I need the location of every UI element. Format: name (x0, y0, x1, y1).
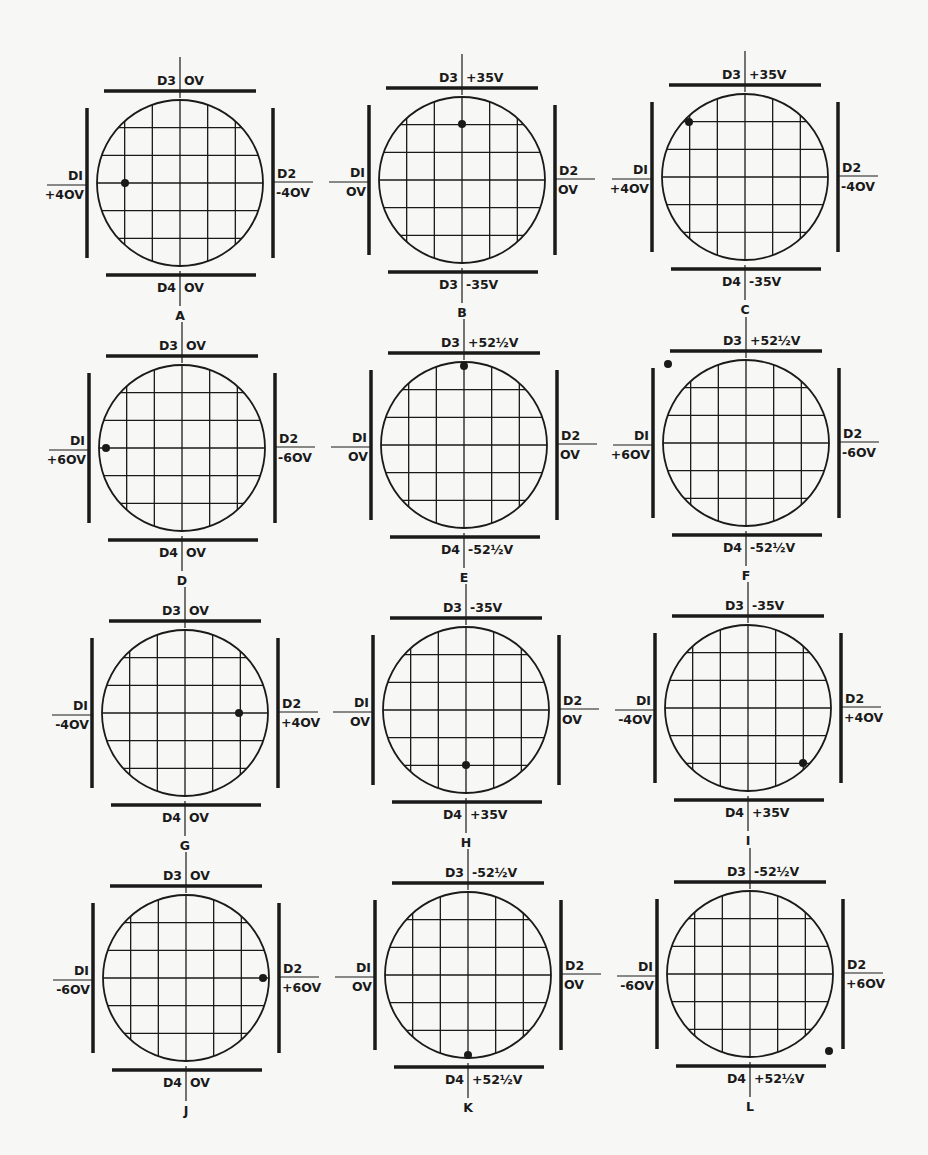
top-plate-name: D3 (723, 333, 742, 348)
top-voltage-label: -35V (470, 600, 503, 615)
d1-plate-name: DI (350, 165, 365, 180)
panel-letter: J (183, 1103, 189, 1118)
electron-spot (664, 360, 672, 368)
deflection-panel-f: DI+6OVD2-6OVD3+52½VD4-52½VF (611, 317, 879, 583)
top-voltage-label: OV (190, 868, 210, 883)
d1-voltage-label: -4OV (618, 712, 652, 727)
bottom-plate-name: D4 (727, 1071, 746, 1086)
d1-plate-name: DI (633, 162, 648, 177)
bottom-voltage-label: OV (190, 1075, 210, 1090)
top-voltage-label: -52½V (754, 864, 800, 879)
d2-voltage-label: +4OV (844, 710, 883, 725)
d2-voltage-label: OV (564, 977, 584, 992)
d1-plate-name: DI (354, 695, 369, 710)
d1-voltage-label: OV (350, 714, 370, 729)
electron-spot (464, 1051, 472, 1059)
d1-plate-name: DI (636, 693, 651, 708)
d2-plate-name: D2 (279, 431, 298, 446)
bottom-voltage-label: OV (184, 280, 204, 295)
deflection-panel-e: DIOVD2OVD3+52½VD4-52½VE (331, 319, 597, 585)
d2-plate-name: D2 (565, 958, 584, 973)
panel-letter: B (457, 305, 467, 320)
d1-voltage-label: -6OV (620, 978, 654, 993)
top-voltage-label: +52½V (468, 335, 519, 350)
electron-spot (235, 709, 243, 717)
deflection-panel-c: DI+4OVD2-4OVD3+35VD4-35VC (610, 51, 878, 317)
top-plate-name: D3 (722, 67, 741, 82)
electron-spot (799, 759, 807, 767)
d2-voltage-label: +6OV (282, 980, 321, 995)
bottom-voltage-label: +35V (752, 805, 790, 820)
deflection-panel-k: DIOVD2OVD3-52½VD4+52½VK (335, 849, 601, 1115)
d1-voltage-label: -4OV (55, 717, 89, 732)
d1-voltage-label: OV (346, 184, 366, 199)
d2-plate-name: D2 (842, 160, 861, 175)
d1-voltage-label: OV (352, 979, 372, 994)
top-voltage-label: OV (184, 73, 204, 88)
top-plate-name: D3 (727, 864, 746, 879)
top-voltage-label: +52½V (750, 333, 801, 348)
top-plate-name: D3 (725, 598, 744, 613)
bottom-voltage-label: +52½V (754, 1071, 805, 1086)
bottom-plate-name: D4 (163, 1075, 182, 1090)
bottom-plate-name: D4 (159, 545, 178, 560)
d2-plate-name: D2 (277, 166, 296, 181)
d1-voltage-label: +6OV (611, 447, 650, 462)
electron-spot (121, 179, 129, 187)
bottom-plate-name: D4 (162, 810, 181, 825)
d2-plate-name: D2 (847, 957, 866, 972)
d2-plate-name: D2 (282, 696, 301, 711)
electron-spot (460, 362, 468, 370)
top-plate-name: D3 (157, 73, 176, 88)
d2-voltage-label: +6OV (846, 976, 885, 991)
d1-plate-name: DI (638, 959, 653, 974)
bottom-plate-name: D4 (722, 274, 741, 289)
d2-plate-name: D2 (283, 961, 302, 976)
bottom-plate-name: D4 (443, 807, 462, 822)
top-plate-name: D3 (443, 600, 462, 615)
deflection-panel-d: DI+6OVD2-6OVD3OVD4OVD (47, 322, 315, 588)
deflection-panel-g: DI-4OVD2+4OVD3OVD4OVG (52, 587, 320, 853)
d2-voltage-label: -4OV (841, 179, 875, 194)
deflection-panel-i: DI-4OVD2+4OVD3-35VD4+35VI (615, 582, 883, 848)
top-voltage-label: -35V (752, 598, 785, 613)
bottom-plate-name: D3 (439, 277, 458, 292)
electron-spot (458, 120, 466, 128)
d2-voltage-label: -6OV (278, 450, 312, 465)
top-voltage-label: -52½V (472, 865, 518, 880)
d1-voltage-label: -6OV (56, 982, 90, 997)
bottom-voltage-label: OV (186, 545, 206, 560)
panel-letter: F (742, 568, 751, 583)
bottom-plate-name: D4 (441, 542, 460, 557)
deflection-panel-a: DI+4OVD2-4OVD3OVD4OVA (45, 57, 313, 323)
electron-spot (259, 974, 267, 982)
bottom-voltage-label: -52½V (468, 542, 514, 557)
panel-letter: I (746, 833, 751, 848)
d2-voltage-label: OV (562, 712, 582, 727)
d2-plate-name: D2 (845, 691, 864, 706)
deflection-panel-b: DIOVD2OVD3+35VD3-35VB (329, 54, 595, 320)
bottom-plate-name: D4 (725, 805, 744, 820)
d2-plate-name: D2 (561, 428, 580, 443)
d2-plate-name: D2 (559, 163, 578, 178)
bottom-plate-name: D4 (445, 1072, 464, 1087)
d2-voltage-label: OV (560, 447, 580, 462)
deflection-panel-h: DIOVD2OVD3-35VD4+35VH (333, 584, 599, 850)
top-plate-name: D3 (163, 868, 182, 883)
deflection-panel-j: DI-6OVD2+6OVD3OVD4OVJ (53, 852, 321, 1118)
panel-letter: G (180, 838, 190, 853)
bottom-plate-name: D4 (157, 280, 176, 295)
d1-voltage-label: +6OV (47, 452, 86, 467)
d1-voltage-label: +4OV (610, 181, 649, 196)
crt-deflection-figure: DI+4OVD2-4OVD3OVD4OVADIOVD2OVD3+35VD3-35… (0, 0, 928, 1155)
panel-letter: H (461, 835, 471, 850)
top-voltage-label: OV (186, 338, 206, 353)
bottom-voltage-label: +52½V (472, 1072, 523, 1087)
d1-plate-name: DI (352, 430, 367, 445)
panel-letter: E (460, 570, 469, 585)
top-voltage-label: +35V (466, 70, 504, 85)
d2-voltage-label: -6OV (842, 445, 876, 460)
panel-letter: L (746, 1099, 754, 1114)
d1-voltage-label: OV (348, 449, 368, 464)
d1-plate-name: DI (73, 698, 88, 713)
